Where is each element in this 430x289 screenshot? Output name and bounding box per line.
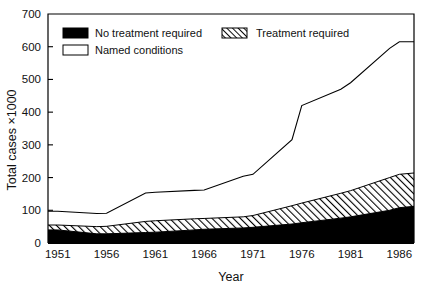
x-tick-label: 1956 — [94, 248, 120, 260]
x-axis-tick-labels: 19511956196119661971197619811986 — [45, 248, 412, 260]
legend-label-named-conditions: Named conditions — [95, 44, 184, 56]
x-tick-label: 1981 — [338, 248, 364, 260]
x-tick-label: 1966 — [191, 248, 217, 260]
x-tick-label: 1986 — [387, 248, 413, 260]
y-tick-label: 100 — [22, 204, 41, 216]
x-tick-label: 1976 — [289, 248, 315, 260]
x-axis-title: Year — [218, 270, 243, 284]
y-tick-label: 600 — [22, 41, 41, 53]
y-axis-title: Total cases ×1000 — [5, 89, 19, 190]
x-tick-label: 1971 — [240, 248, 266, 260]
y-tick-label: 0 — [35, 237, 41, 249]
chart-canvas: 0100200300400500600700 19511956196119661… — [0, 0, 430, 289]
chart-figure: 0100200300400500600700 19511956196119661… — [0, 0, 430, 289]
y-tick-label: 500 — [22, 73, 41, 85]
x-tick-label: 1961 — [143, 248, 169, 260]
y-tick-label: 400 — [22, 106, 41, 118]
legend-swatch-no-treatment-required — [63, 28, 88, 38]
legend-swatch-treatment-required — [222, 28, 247, 38]
legend-label-no-treatment-required: No treatment required — [95, 27, 202, 39]
y-tick-label: 300 — [22, 139, 41, 151]
x-tick-label: 1951 — [45, 248, 71, 260]
y-axis-tick-labels: 0100200300400500600700 — [22, 8, 41, 249]
legend-swatch-named-conditions — [63, 45, 88, 55]
y-tick-label: 700 — [22, 8, 41, 20]
legend-label-treatment-required: Treatment required — [256, 27, 349, 39]
y-tick-label: 200 — [22, 172, 41, 184]
